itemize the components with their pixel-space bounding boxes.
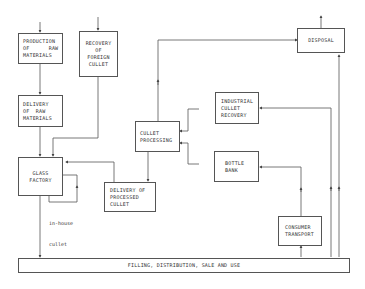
node-disposal: DISPOSAL — [297, 28, 345, 53]
node-text: RECOVERY — [221, 112, 258, 119]
node-industrial-cullet-recovery: INDUSTRIAL CULLET RECOVERY — [215, 92, 259, 124]
node-recovery-foreign-cullet: RECOVERY OF FOREIGN CULLET — [79, 31, 118, 77]
node-delivery-raw-materials: DELIVERY OF RAW MATERIALS — [18, 95, 63, 127]
node-text: DELIVERY OF — [110, 187, 155, 194]
node-filling-distribution-sale-use: FILLING, DISTRIBUTION, SALE AND USE — [18, 258, 350, 273]
annotation-text: cullet — [49, 241, 73, 248]
node-text: INDUSTRIAL — [221, 98, 258, 105]
node-text: OF — [95, 47, 101, 54]
node-text: BANK — [225, 167, 258, 174]
node-text: CONSUMER — [285, 224, 321, 231]
node-text: CULLET — [110, 201, 155, 208]
node-glass-factory: GLASS FACTORY — [18, 157, 63, 196]
node-text: BOTTLE — [225, 160, 258, 167]
annotation-text: in-house — [49, 220, 73, 227]
node-text: OF RAW — [23, 45, 62, 52]
node-text: PROCESSED — [110, 194, 155, 201]
node-text: PRODUCTION — [23, 38, 62, 45]
node-bottle-bank: BOTTLE BANK — [214, 151, 259, 182]
node-text: CULLET — [89, 61, 108, 68]
node-production-raw-materials: PRODUCTION OF RAW MATERIALS — [18, 33, 63, 64]
node-text: DISPOSAL — [308, 37, 334, 44]
node-text: FACTORY — [29, 177, 51, 184]
in-house-cullet-label: in-house cullet — [49, 206, 73, 255]
node-text: PROCESSING — [140, 137, 179, 144]
node-text: DELIVERY — [23, 101, 62, 108]
node-text: RECOVERY — [86, 40, 112, 47]
node-text: CULLET — [221, 105, 258, 112]
node-text: FOREIGN — [87, 54, 109, 61]
node-cullet-processing: CULLET PROCESSING — [135, 121, 180, 152]
node-text: GLASS — [32, 170, 48, 177]
node-text: OF RAW — [23, 108, 62, 115]
node-text: MATERIALS — [23, 115, 62, 122]
node-text: MATERIALS — [23, 52, 62, 59]
node-text: TRANSPORT — [285, 231, 321, 238]
node-consumer-transport: CONSUMER TRANSPORT — [278, 216, 322, 246]
node-delivery-processed-cullet: DELIVERY OF PROCESSED CULLET — [104, 182, 156, 212]
node-text: FILLING, DISTRIBUTION, SALE AND USE — [128, 262, 240, 269]
node-text: CULLET — [140, 130, 179, 137]
